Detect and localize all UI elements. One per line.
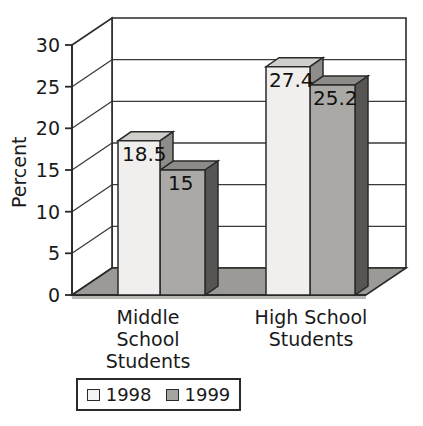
- x-category-label-high-school: High School Students: [246, 306, 376, 350]
- bar-value-label-27-4: 27.4: [269, 70, 314, 90]
- legend-label-1998: 1998: [106, 386, 152, 404]
- y-axis-ticks: [65, 45, 72, 295]
- chart-legend: 1998 1999: [76, 378, 241, 411]
- x-category-label-middle-school: Middle School Students: [83, 306, 213, 373]
- legend-entry-1998: 1998: [87, 386, 152, 404]
- y-tick-label-30: 30: [26, 36, 60, 55]
- legend-entry-1999: 1999: [166, 386, 231, 404]
- bar-chart: 30 25 20 15 10 5 0 Percent 18.5 15 27.4 …: [0, 0, 423, 426]
- legend-label-1999: 1999: [185, 386, 231, 404]
- y-axis-title: Percent: [10, 137, 29, 209]
- y-tick-label-15: 15: [26, 161, 60, 180]
- bar-value-label-25-2: 25.2: [313, 88, 358, 108]
- y-tick-label-0: 0: [26, 286, 60, 305]
- y-tick-label-20: 20: [26, 119, 60, 138]
- y-tick-label-25: 25: [26, 78, 60, 97]
- bar-value-label-15: 15: [168, 173, 193, 193]
- bar-value-label-18-5: 18.5: [122, 144, 167, 164]
- legend-swatch-1999-icon: [166, 389, 179, 401]
- legend-swatch-1998-icon: [87, 389, 100, 401]
- y-tick-label-10: 10: [26, 203, 60, 222]
- y-tick-label-5: 5: [26, 244, 60, 263]
